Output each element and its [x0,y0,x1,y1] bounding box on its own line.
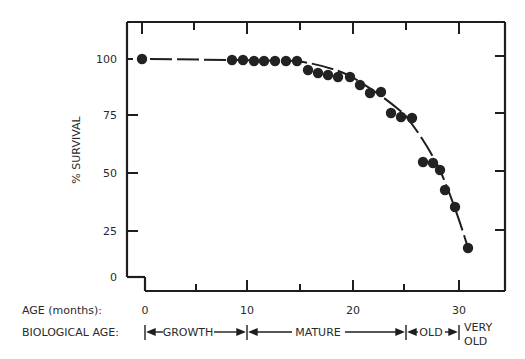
phase-old: OLD [419,326,442,339]
phase-growth: GROWTH [163,326,214,339]
x-tick-0: 0 [142,304,149,317]
y-tick-0: 0 [110,271,117,284]
y-tick-100: 100 [96,53,117,66]
plot-frame [127,22,505,291]
x-tick-10: 10 [240,304,254,317]
survival-chart: 100 75 50 25 0 % SURVIVAL 0 10 20 30 AGE… [0,0,525,359]
phase-very-old-line2: OLD [464,335,487,348]
left-ticks [127,59,138,231]
phase-very-old-line1: VERY [464,321,492,334]
bottom-ticks [196,280,459,291]
y-tick-75: 75 [103,109,117,122]
x-tick-20: 20 [346,304,360,317]
y-axis-label: % SURVIVAL [70,116,83,184]
y-tick-50: 50 [103,167,117,180]
y-tick-25: 25 [103,225,117,238]
phase-mature: MATURE [295,326,341,339]
top-ticks [142,22,459,34]
right-ticks [495,56,505,230]
x-tick-30: 30 [452,304,466,317]
data-points [137,54,473,253]
biological-age-label: BIOLOGICAL AGE: [22,326,119,339]
x-axis-label: AGE (months): [22,304,102,317]
fitted-curve [150,59,468,248]
